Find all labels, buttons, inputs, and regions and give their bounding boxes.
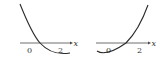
- left-axis-label: x: [74, 39, 79, 48]
- right-axis-label: x: [152, 39, 157, 48]
- left-tick-0: 0: [27, 46, 32, 55]
- left-graph: x 0 2: [20, 4, 79, 55]
- right-tick-2: 2: [137, 46, 142, 55]
- right-graph: x 0 2: [96, 5, 156, 55]
- graphs-figure: x 0 2 x 0 2: [0, 0, 156, 61]
- right-tick-0: 0: [106, 46, 111, 55]
